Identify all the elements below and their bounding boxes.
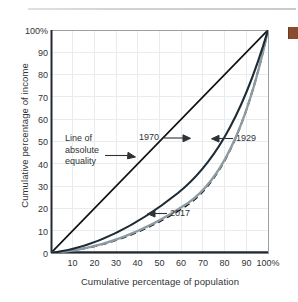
annotation-1929: 1929 bbox=[236, 133, 256, 145]
y-tick-label-70: 70 bbox=[6, 93, 48, 103]
annotation-2017: 2017 bbox=[170, 208, 190, 220]
y-tick-label-0: 0 bbox=[6, 249, 48, 259]
annotation-1970: 1970 bbox=[139, 132, 159, 144]
x-axis-title: Cumulative percentage of population bbox=[51, 276, 269, 287]
y-tick-label-60: 60 bbox=[6, 115, 48, 125]
y-tick-label-90: 90 bbox=[6, 48, 48, 58]
lorenz-curve-figure: Cumulative percentage of income Cumulati… bbox=[0, 0, 298, 302]
y-tick-label-50: 50 bbox=[6, 137, 48, 147]
x-axis-title-text: Cumulative percentage of population bbox=[81, 276, 239, 287]
y-tick-label-40: 40 bbox=[6, 160, 48, 170]
y-tick-label-30: 30 bbox=[6, 182, 48, 192]
y-tick-label-20: 20 bbox=[6, 204, 48, 214]
x-tick-label-100: 100% bbox=[250, 258, 286, 268]
annotation-equality: Line of absolute equality bbox=[65, 133, 99, 168]
y-tick-label-10: 10 bbox=[6, 227, 48, 237]
y-tick-label-80: 80 bbox=[6, 70, 48, 80]
y-tick-label-100: 100% bbox=[6, 26, 48, 36]
annotation-equality-line1: Line of bbox=[65, 133, 99, 145]
annotation-equality-line3: equality bbox=[65, 156, 99, 168]
annotation-equality-line2: absolute bbox=[65, 145, 99, 157]
